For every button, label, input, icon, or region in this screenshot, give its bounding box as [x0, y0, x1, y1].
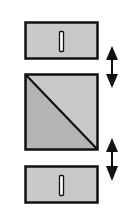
lower-double-arrow-icon [106, 138, 118, 181]
upper-double-arrow-icon [106, 46, 118, 88]
bottom-panel [26, 167, 98, 203]
diagram-canvas [0, 0, 125, 208]
middle-square [26, 75, 98, 150]
bottom-panel-handle [60, 176, 64, 196]
top-panel [26, 23, 98, 59]
top-panel-handle [60, 32, 64, 52]
